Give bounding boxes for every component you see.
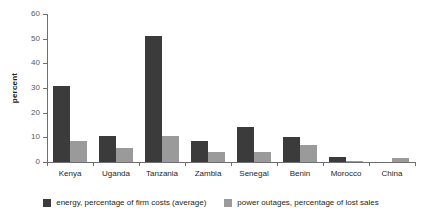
bar — [208, 152, 225, 162]
x-axis-tick — [93, 162, 94, 166]
chart-legend: energy, percentage of firm costs (averag… — [0, 198, 422, 208]
bar — [300, 145, 317, 162]
legend-item[interactable]: energy, percentage of firm costs (averag… — [43, 198, 206, 208]
bar — [191, 141, 208, 162]
legend-swatch-icon — [43, 199, 51, 207]
bar-group — [369, 14, 415, 162]
legend-item[interactable]: power outages, percentage of lost sales — [224, 198, 378, 208]
y-axis-tick-label: 40 — [20, 57, 40, 68]
legend-swatch-icon — [224, 199, 232, 207]
x-axis-tick — [415, 162, 416, 166]
legend-label: power outages, percentage of lost sales — [237, 198, 378, 208]
bar-group — [185, 14, 231, 162]
x-axis-tick — [47, 162, 48, 166]
x-axis-tick — [139, 162, 140, 166]
x-axis-tick — [185, 162, 186, 166]
bar-group — [93, 14, 139, 162]
bar — [237, 127, 254, 162]
bar — [70, 141, 87, 162]
x-axis-tick — [277, 162, 278, 166]
bar-group — [231, 14, 277, 162]
y-axis-tick-label: 50 — [20, 33, 40, 44]
bar-group — [47, 14, 93, 162]
bar-group — [277, 14, 323, 162]
bar-chart: percent 0102030405060 KenyaUgandaTanzani… — [0, 0, 422, 220]
bar-group — [139, 14, 185, 162]
plot-area: 0102030405060 KenyaUgandaTanzaniaZambiaS… — [47, 14, 415, 162]
bar — [162, 136, 179, 162]
y-axis-tick-label: 30 — [20, 82, 40, 93]
bar — [329, 157, 346, 162]
bar — [346, 161, 363, 162]
bar — [116, 148, 133, 162]
y-axis-tick-label: 20 — [20, 107, 40, 118]
x-axis-category-label: China — [362, 168, 422, 180]
bar — [99, 136, 116, 162]
y-axis-tick-label: 10 — [20, 131, 40, 142]
bar — [53, 86, 70, 162]
bar-group — [323, 14, 369, 162]
x-axis-tick — [369, 162, 370, 166]
x-axis-tick — [231, 162, 232, 166]
bar — [283, 137, 300, 162]
legend-label: energy, percentage of firm costs (averag… — [56, 198, 206, 208]
bar — [254, 152, 271, 162]
x-axis-tick — [323, 162, 324, 166]
y-axis-tick-label: 60 — [20, 8, 40, 19]
bar — [392, 158, 409, 162]
bar — [145, 36, 162, 162]
y-axis-tick-label: 0 — [20, 156, 40, 167]
